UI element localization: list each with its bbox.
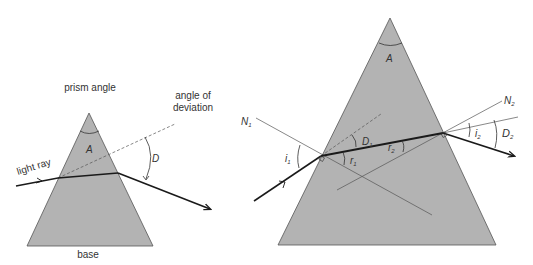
deviation-2-arc bbox=[494, 120, 497, 148]
deviation-2-label: D2 bbox=[502, 127, 514, 140]
left-incident-arrowhead bbox=[36, 178, 42, 183]
emergence-2-label: i2 bbox=[475, 128, 481, 140]
incidence-angle-1-arc bbox=[298, 145, 300, 168]
incidence-1-label: i1 bbox=[285, 153, 291, 165]
refraction-2-subscript: 2 bbox=[390, 148, 395, 154]
left-title-prism-angle: prism angle bbox=[64, 82, 116, 93]
deviation-2-symbol: D bbox=[502, 127, 510, 139]
left-prism-diagram: prism angle light ray angle of deviation… bbox=[15, 82, 213, 260]
normal-2-label: N2 bbox=[504, 95, 515, 107]
normal-2-subscript: 2 bbox=[510, 101, 515, 107]
prism-diagram: prism angle light ray angle of deviation… bbox=[0, 0, 533, 265]
incidence-1-subscript: 1 bbox=[287, 159, 290, 165]
refraction-1-subscript: 1 bbox=[353, 161, 356, 167]
left-apex-angle-label: A bbox=[85, 144, 93, 155]
emergence-angle-2-arc bbox=[469, 123, 470, 137]
right-prism-diagram: A N1 N2 i1 D1 r1 r2 i2 D2 bbox=[241, 18, 518, 245]
normal-1-label: N1 bbox=[241, 116, 252, 128]
normal-1-subscript: 1 bbox=[248, 122, 251, 128]
left-deviation-arc bbox=[145, 137, 151, 179]
right-apex-angle-label: A bbox=[385, 53, 393, 64]
left-deviation-label-line1: angle of bbox=[175, 90, 211, 101]
deviation-2-subscript: 2 bbox=[509, 134, 514, 140]
left-base-label: base bbox=[77, 249, 99, 260]
left-deviation-angle-label: D bbox=[152, 153, 159, 164]
left-deviation-label-line2: deviation bbox=[173, 102, 213, 113]
left-light-ray-label: light ray bbox=[15, 156, 52, 177]
emergence-2-subscript: 2 bbox=[476, 134, 481, 140]
deviation-1-subscript: 1 bbox=[369, 142, 372, 148]
deviation-1-symbol: D bbox=[362, 136, 369, 147]
